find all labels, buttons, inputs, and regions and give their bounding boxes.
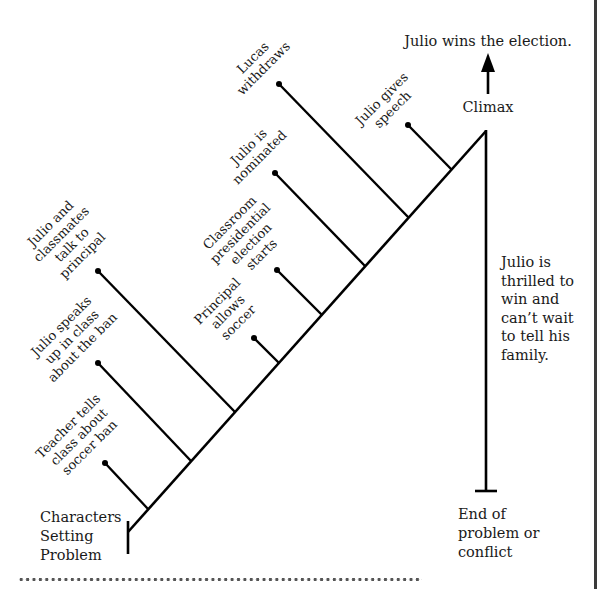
event-branch-line xyxy=(105,463,148,509)
plot-diagram-canvas: Teacher tellsclass aboutsoccer banJulio … xyxy=(0,0,597,589)
rising-action-line xyxy=(128,131,486,532)
event-dot-icon xyxy=(102,460,108,466)
falling-label-line: Julio is xyxy=(499,254,551,270)
event-branch-line xyxy=(98,363,191,461)
falling-action-text: Julio isthrilled towin andcan’t waitto t… xyxy=(499,254,574,363)
event-labels: Teacher tellsclass aboutsoccer banJulio … xyxy=(20,28,422,483)
event-branch-line xyxy=(408,125,452,170)
event-branch-line xyxy=(275,173,365,266)
end-label: End ofproblem orconflict xyxy=(458,506,540,560)
event-dot-icon xyxy=(251,335,257,341)
end-label-line: problem or xyxy=(458,525,540,541)
event-dot-icon xyxy=(276,81,282,87)
falling-label-line: family. xyxy=(501,347,549,363)
start-label-line: Problem xyxy=(40,547,102,563)
event-dot-icon xyxy=(95,360,101,366)
climax-result-text: Julio wins the election. xyxy=(402,33,572,49)
event-dot-icon xyxy=(95,268,101,274)
svg-text:Julio isthrilled towin andcan’: Julio isthrilled towin andcan’t waitto t… xyxy=(499,254,574,363)
falling-label-line: win and xyxy=(501,291,559,307)
end-label-line: End of xyxy=(458,506,508,522)
event-dot-icon xyxy=(272,170,278,176)
end-label-line: conflict xyxy=(458,544,513,560)
dotted-divider xyxy=(18,577,422,582)
falling-label-line: can’t wait xyxy=(501,310,574,326)
start-label: CharactersSettingProblem xyxy=(40,509,122,563)
event-branch-line xyxy=(277,270,322,315)
falling-label-line: to tell his xyxy=(501,328,570,344)
event-branch-line xyxy=(254,338,279,363)
start-label-line: Setting xyxy=(40,528,93,544)
climax-label: Climax xyxy=(463,99,514,115)
event-dot-icon xyxy=(405,122,411,128)
svg-text:End ofproblem orconflict: End ofproblem orconflict xyxy=(458,506,540,560)
event-dot-icon xyxy=(274,267,280,273)
falling-label-line: thrilled to xyxy=(501,273,574,289)
svg-text:CharactersSettingProblem: CharactersSettingProblem xyxy=(40,509,122,563)
climax-arrow-icon xyxy=(481,53,495,72)
start-label-line: Characters xyxy=(40,509,122,525)
